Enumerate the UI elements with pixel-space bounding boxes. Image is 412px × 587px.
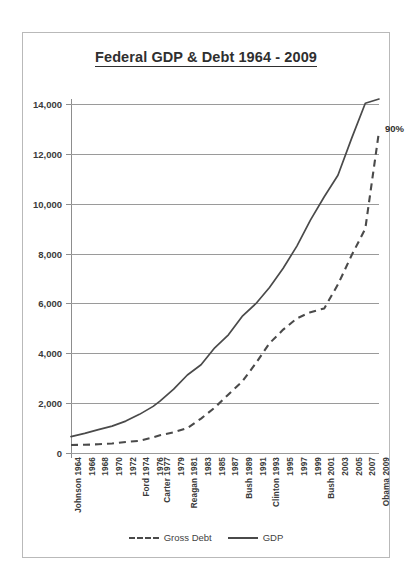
y-axis-label: 0 [57, 448, 62, 459]
x-axis-label: 1968 [101, 457, 110, 476]
x-axis-label: 1999 [314, 457, 323, 476]
chart-title-text: Federal GDP & Debt 1964 - 2009 [95, 49, 317, 67]
annotation-label: 90% [385, 123, 404, 134]
chart-title: Federal GDP & Debt 1964 - 2009 [23, 49, 389, 65]
x-axis-label: 1972 [129, 457, 138, 476]
x-axis-label: 1983 [204, 457, 213, 476]
y-axis-label: 6,000 [38, 298, 62, 309]
x-axis-label: 1991 [259, 457, 268, 476]
gridline [71, 453, 379, 454]
chart-container: Federal GDP & Debt 1964 - 2009 02,0004,0… [22, 32, 390, 558]
x-axis-label: Obama 2009 [382, 457, 391, 506]
x-axis-label: Reagan 1981 [190, 457, 199, 508]
x-axis-label: 1979 [177, 457, 186, 476]
x-axis-label: Johnson 1964 [74, 457, 83, 513]
x-axis-label: Bush 1989 [245, 457, 254, 499]
x-axis-label: 2007 [368, 457, 377, 476]
x-axis-label: Bush 2001 [327, 457, 336, 499]
legend-item-gdp: GDP [228, 532, 284, 543]
x-axis-label: 1970 [115, 457, 124, 476]
y-axis-label: 8,000 [38, 248, 62, 259]
y-axis-label: 10,000 [33, 198, 62, 209]
x-axis-label: 1995 [286, 457, 295, 476]
line-gross-debt [71, 131, 379, 445]
legend-item-gross-debt: Gross Debt [129, 532, 212, 543]
legend-label-gdp: GDP [263, 532, 284, 543]
legend-swatch-solid-icon [228, 537, 258, 539]
y-axis-label: 4,000 [38, 348, 62, 359]
plot-area: 02,0004,0006,0008,00010,00012,00014,000 [71, 104, 379, 453]
x-axis-label: Ford 1974 [142, 457, 151, 497]
legend-swatch-dashed-icon [129, 537, 159, 539]
line-gdp [71, 99, 379, 437]
x-axis-label: 1997 [300, 457, 309, 476]
legend-label-gross-debt: Gross Debt [164, 532, 212, 543]
annotation-debt-ratio: 90% [385, 123, 404, 134]
y-axis-label: 2,000 [38, 398, 62, 409]
x-axis-label: Carter 1977 [163, 457, 172, 503]
y-axis-tick [66, 453, 71, 454]
x-axis-label: 1966 [88, 457, 97, 476]
chart-legend: Gross Debt GDP [23, 532, 389, 543]
x-axis-label: 1985 [218, 457, 227, 476]
x-axis-label: 2003 [341, 457, 350, 476]
x-axis-label: 2005 [355, 457, 364, 476]
y-axis-label: 12,000 [33, 148, 62, 159]
x-axis-label: Clinton 1993 [272, 457, 281, 507]
y-axis-label: 14,000 [33, 99, 62, 110]
x-axis-label: 1987 [231, 457, 240, 476]
series-lines [71, 104, 379, 453]
